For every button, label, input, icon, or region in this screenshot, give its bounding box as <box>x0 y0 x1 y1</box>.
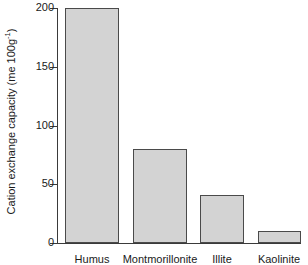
y-axis-title-superscript: -1 <box>3 32 12 39</box>
y-axis-line <box>57 8 58 244</box>
y-axis-title: Cation exchange capacity (me 100g-1) <box>2 0 20 243</box>
bar-kaolinite <box>258 231 301 243</box>
y-axis-title-suffix: ) <box>5 29 17 33</box>
y-tick-label-200: 200 <box>36 1 54 13</box>
bar-illite <box>200 195 244 243</box>
y-tick-label-150: 150 <box>36 60 54 72</box>
bar-humus <box>65 8 119 243</box>
y-tick-label-50: 50 <box>42 177 54 189</box>
y-axis-title-text: Cation exchange capacity (me 100g <box>5 39 17 215</box>
plot-area: 0 50 100 150 200 Humus Montmorillonite I… <box>57 8 308 243</box>
x-tick-label-illite: Illite <box>212 253 232 265</box>
y-tick-label-0: 0 <box>48 236 54 248</box>
x-tick-label-kaolinite: Kaolinite <box>258 253 300 265</box>
bar-montmorillonite <box>133 149 187 243</box>
x-tick-label-humus: Humus <box>75 253 110 265</box>
bar-chart-figure: Cation exchange capacity (me 100g-1) 0 5… <box>0 0 308 265</box>
y-tick-label-100: 100 <box>36 119 54 131</box>
x-tick-label-montmorillonite: Montmorillonite <box>123 253 198 265</box>
x-axis-line <box>50 243 301 244</box>
